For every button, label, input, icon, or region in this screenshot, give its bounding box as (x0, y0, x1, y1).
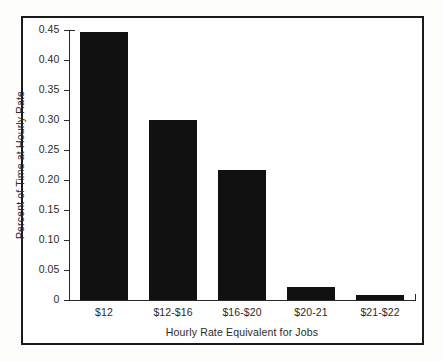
x-axis-title: Hourly Rate Equivalent for Jobs (70, 326, 415, 338)
bar-chart: 00.050.100.150.200.250.300.350.400.45 $1… (23, 18, 422, 343)
y-axis-title: Percent of Time at Hourly Rate (14, 50, 26, 280)
y-axis-tick-label: 0 (14, 294, 60, 305)
x-axis-end-tick (415, 294, 416, 300)
x-axis-line (69, 300, 416, 301)
y-axis-tick-label: 0.45 (14, 24, 60, 35)
bar (287, 287, 335, 300)
figure-frame: 00.050.100.150.200.250.300.350.400.45 $1… (21, 16, 424, 345)
bar (149, 120, 197, 300)
plot-area (70, 30, 415, 300)
figure-root: 00.050.100.150.200.250.300.350.400.45 $1… (0, 0, 443, 361)
x-axis-category-label: $21-$22 (330, 307, 430, 318)
bar (80, 32, 128, 300)
y-axis-tick (64, 300, 70, 301)
bar (218, 170, 266, 300)
bar (356, 295, 404, 300)
